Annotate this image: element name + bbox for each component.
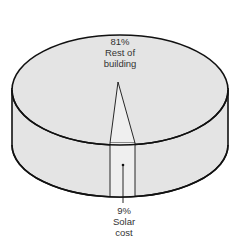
slice-solar-side	[110, 143, 135, 197]
label-solar-line2: cost	[100, 227, 148, 238]
label-solar-cost: 9% Solar cost	[100, 205, 148, 238]
label-solar-line1: Solar	[100, 216, 148, 227]
label-solar-percent: 9%	[100, 205, 148, 216]
label-rest-line1: Rest of	[95, 47, 145, 58]
label-rest-line2: building	[95, 58, 145, 69]
label-rest-percent: 81%	[95, 36, 145, 47]
label-rest-of-building: 81% Rest of building	[95, 36, 145, 69]
